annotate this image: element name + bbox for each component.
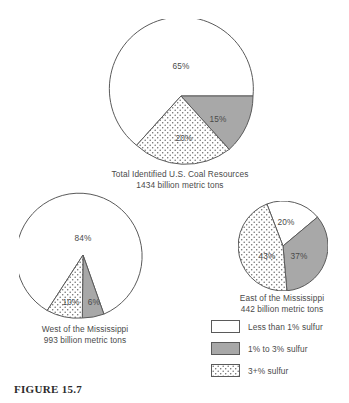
pie-svg-east-mississippi: 20% 37% 43% [238, 201, 328, 291]
slice-label-total-us-gray: 15% [209, 114, 227, 124]
legend: Less than 1% sulfur 1% to 3% sulfur 3+% … [211, 319, 323, 385]
slice-label-total-us-white: 65% [172, 61, 190, 71]
slice-label-west-dotted: 10% [62, 297, 80, 307]
caption-west-mississippi: West of the Mississippi 993 billion metr… [0, 324, 170, 345]
caption-east-subtitle: 442 billion metric tons [197, 304, 349, 315]
legend-item-3-plus: 3+% sulfur [211, 363, 323, 378]
pie-chart-total-us: 65% 15% 20% [104, 19, 258, 173]
legend-swatch-gray [211, 342, 240, 355]
pie-svg-west-mississippi: 84% 6% 10% [19, 191, 147, 319]
legend-item-less-than-1: Less than 1% sulfur [211, 319, 323, 334]
caption-west-title: West of the Mississippi [0, 324, 170, 335]
caption-east-mississippi: East of the Mississippi 442 billion metr… [197, 293, 349, 314]
caption-total-us-title: Total Identified U.S. Coal Resources [80, 169, 280, 180]
figure-number-caption: FIGURE 15.7 [14, 383, 82, 395]
pie-svg-total-us: 65% 15% 20% [104, 19, 258, 173]
caption-total-us-subtitle: 1434 billion metric tons [80, 180, 280, 191]
legend-label-less-than-1: Less than 1% sulfur [248, 322, 323, 332]
slice-label-east-white: 20% [277, 217, 295, 227]
pie-chart-east-mississippi: 20% 37% 43% [238, 201, 328, 291]
legend-label-3-plus: 3+% sulfur [248, 366, 288, 376]
slice-label-west-gray: 6% [88, 297, 101, 307]
caption-total-us: Total Identified U.S. Coal Resources 143… [80, 169, 280, 190]
legend-swatch-white [211, 320, 240, 333]
legend-swatch-dotted [211, 364, 240, 377]
caption-west-subtitle: 993 billion metric tons [0, 335, 170, 346]
caption-east-title: East of the Mississippi [197, 293, 349, 304]
figure-canvas: 65% 15% 20% Total Identified U.S. Coal R… [0, 0, 349, 403]
slice-label-east-dotted: 43% [258, 251, 276, 261]
legend-label-1-to-3: 1% to 3% sulfur [248, 344, 308, 354]
pie-chart-west-mississippi: 84% 6% 10% [19, 191, 147, 319]
slice-label-total-us-dotted: 20% [175, 133, 193, 143]
slice-label-west-white: 84% [74, 233, 92, 243]
legend-item-1-to-3: 1% to 3% sulfur [211, 341, 323, 356]
slice-label-east-gray: 37% [290, 251, 308, 261]
